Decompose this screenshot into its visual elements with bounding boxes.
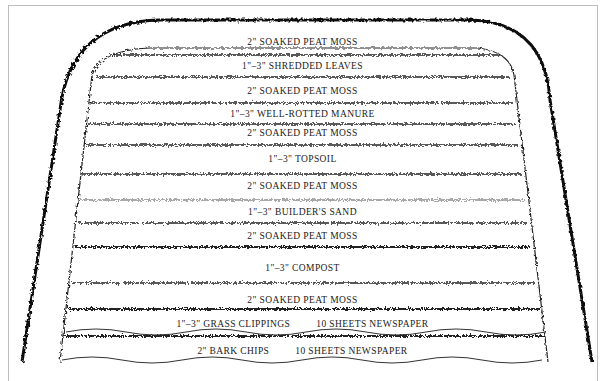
layer-label-newspaper-1: 10 SHEETS NEWSPAPER [316,319,428,329]
layer-label-grass-clippings: 1"–3" GRASS CLIPPINGS [176,319,290,329]
layer-label-topsoil: 1"–3" TOPSOIL [0,154,605,164]
layer-label-peat-moss-2: 2" SOAKED PEAT MOSS [0,86,605,96]
layer-label-well-rotted-manure: 1"–3" WELL-ROTTED MANURE [0,109,605,119]
layer-label-grass-clippings-row: 1"–3" GRASS CLIPPINGS 10 SHEETS NEWSPAPE… [0,319,605,329]
layer-label-peat-moss-1: 2" SOAKED PEAT MOSS [0,37,605,47]
mound-outer-outline [22,20,592,362]
layer-label-builders-sand: 1"–3" BUILDER'S SAND [0,207,605,217]
layer-label-newspaper-2: 10 SHEETS NEWSPAPER [295,346,407,356]
layer-dividers [64,55,545,336]
layer-label-peat-moss-4: 2" SOAKED PEAT MOSS [0,181,605,191]
layer-label-peat-moss-3: 2" SOAKED PEAT MOSS [0,128,605,138]
layer-label-peat-moss-6: 2" SOAKED PEAT MOSS [0,295,605,305]
layer-label-compost: 1"–3" COMPOST [0,263,605,273]
layer-label-bark-chips: 2" BARK CHIPS [197,346,269,356]
layer-label-bark-chips-row: 2" BARK CHIPS 10 SHEETS NEWSPAPER [0,346,605,356]
layer-label-peat-moss-5: 2" SOAKED PEAT MOSS [0,231,605,241]
layer-label-shredded-leaves: 1"–3" SHREDDED LEAVES [0,61,605,71]
